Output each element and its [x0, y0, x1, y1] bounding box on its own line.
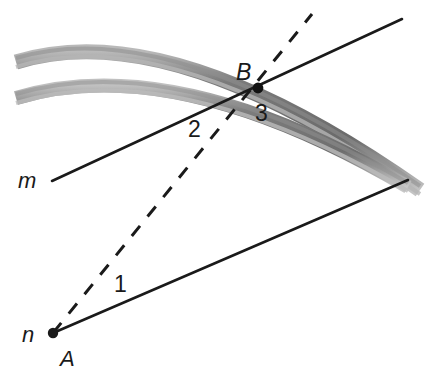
- label-b: B: [236, 59, 251, 85]
- label-m: m: [18, 168, 36, 193]
- point-a-dot: [48, 328, 58, 338]
- point-b-dot: [253, 83, 264, 94]
- label-angle-2: 2: [188, 116, 201, 142]
- ray-a-solid: [53, 180, 408, 333]
- outer-arc-band: [16, 48, 420, 194]
- geometry-diagram: g p: [0, 0, 445, 372]
- label-n: n: [22, 322, 34, 347]
- diagram-canvas: n A m B 1 2 3: [0, 0, 445, 372]
- label-a: A: [58, 346, 75, 371]
- label-angle-3: 3: [255, 100, 268, 126]
- label-angle-1: 1: [114, 271, 127, 297]
